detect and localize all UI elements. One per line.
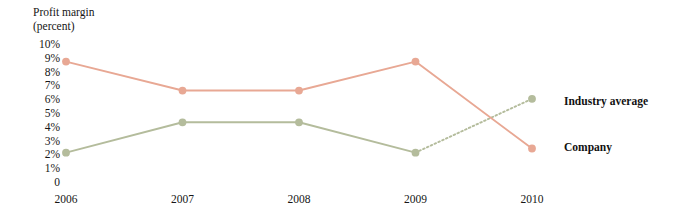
data-point <box>412 149 420 157</box>
data-point <box>179 118 187 126</box>
legend-item-industry-average: Industry average <box>564 95 648 107</box>
data-point <box>295 87 303 95</box>
plot-area <box>0 0 689 221</box>
series-company <box>62 58 536 153</box>
series-segment <box>416 99 533 153</box>
data-point <box>528 145 536 153</box>
series-segment <box>66 62 183 91</box>
data-point <box>528 95 536 103</box>
data-point <box>62 149 70 157</box>
series-segment <box>299 122 416 152</box>
profit-margin-line-chart: Profit margin (percent) 10%9%8%7%6%5%4%3… <box>0 0 689 221</box>
series-industry-average <box>62 95 536 157</box>
data-point <box>295 118 303 126</box>
series-segment <box>416 62 533 149</box>
data-point <box>62 58 70 66</box>
legend-item-company: Company <box>564 141 612 153</box>
data-point <box>412 58 420 66</box>
series-layer <box>62 58 536 157</box>
series-segment <box>66 122 183 152</box>
series-segment <box>299 62 416 91</box>
data-point <box>179 87 187 95</box>
